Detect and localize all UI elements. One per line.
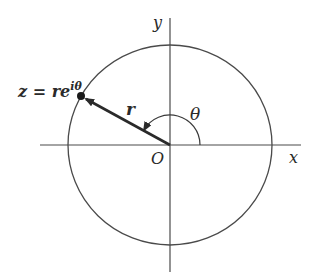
x-axis-label: x <box>289 148 298 167</box>
point-z <box>77 92 85 100</box>
origin-label: O <box>151 149 164 168</box>
point-label: z = reiθ <box>17 80 82 101</box>
y-axis-label: y <box>152 13 163 32</box>
point-label-exponent: iθ <box>70 80 82 93</box>
angle-label: θ <box>190 104 200 124</box>
point-label-base: z = re <box>17 82 70 101</box>
radius-label: r <box>126 99 136 119</box>
complex-plane-diagram: y x O r θ z = reiθ <box>0 0 318 272</box>
